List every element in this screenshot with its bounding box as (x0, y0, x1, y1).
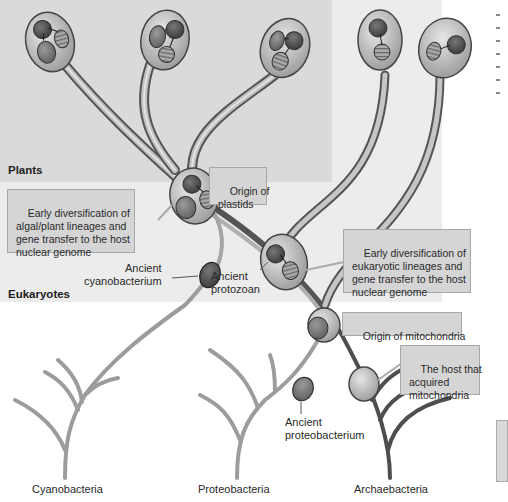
eukaryote-cell-2 (412, 12, 478, 83)
algal-diversification-text: Early diversification of algal/plant lin… (16, 207, 130, 258)
origin-mitochondria-callout: Origin of mitochondria (342, 312, 462, 336)
origin-mitochondria-text: Origin of mitochondria (363, 330, 466, 342)
host-cell (349, 367, 379, 401)
mitochondria-origin-cell (308, 308, 340, 342)
lineage-cyanobacteria: Cyanobacteria (32, 483, 103, 496)
ancient-cyanobacterium-label: Ancient cyanobacterium (84, 262, 162, 288)
lineage-proteobacteria: Proteobacteria (198, 483, 270, 496)
ancient-proteobacterium-label: Ancient proteobacterium (285, 416, 365, 442)
cyanobacteria-tree (15, 272, 215, 478)
origin-plastids-callout: Origin of plastids (209, 167, 267, 205)
eukaryote-cell-1 (358, 10, 402, 70)
ancient-protozoan-label: Ancient protozoan (211, 270, 260, 296)
host-acquired-callout: The host that acquired mitochondria (400, 345, 480, 395)
plants-label: Plants (8, 164, 43, 177)
algal-diversification-callout: Early diversification of algal/plant lin… (7, 189, 135, 253)
proteobacteria-tree (200, 345, 315, 478)
eukaryotic-diversification-text: Early diversification of eukaryotic line… (352, 247, 466, 298)
ancient-proteobacterium-cell (289, 374, 317, 404)
plant-cell-2 (136, 6, 194, 73)
lineage-archaebacteria: Archaebacteria (354, 483, 428, 496)
eukaryotes-label: Eukaryotes (8, 288, 70, 301)
plant-cell-3 (252, 12, 318, 85)
eukaryotic-diversification-callout: Early diversification of eukaryotic line… (343, 229, 471, 293)
